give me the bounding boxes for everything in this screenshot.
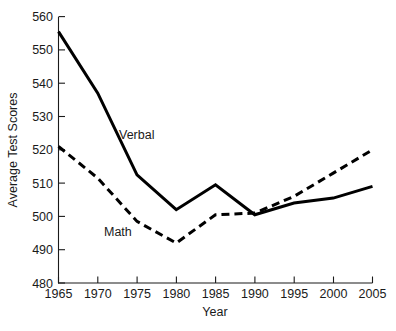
y-tick-label: 560: [32, 10, 53, 24]
x-tick-label: 1995: [280, 287, 308, 301]
series-label-verbal: Verbal: [119, 128, 154, 142]
x-tick-label: 1980: [162, 287, 190, 301]
chart-canvas: 480 490 500 510 520 530 540 550 560 1965…: [0, 0, 396, 331]
y-tick-label: 540: [32, 77, 53, 91]
y-tick-label: 490: [32, 243, 53, 257]
x-tick-label: 1970: [84, 287, 112, 301]
y-tick-label: 520: [32, 143, 53, 157]
x-tick-labels: 1965 1970 1975 1980 1985 1990 1995 2000 …: [45, 287, 387, 301]
y-tick-label: 510: [32, 177, 53, 191]
series-label-math: Math: [104, 225, 132, 239]
x-tick-label: 1990: [241, 287, 269, 301]
x-tick-marks: [59, 277, 373, 284]
y-axis-title: Average Test Scores: [6, 93, 20, 208]
y-tick-labels: 480 490 500 510 520 530 540 550 560: [32, 10, 53, 290]
y-tick-label: 530: [32, 110, 53, 124]
x-tick-label: 2000: [320, 287, 348, 301]
x-tick-label: 1965: [45, 287, 73, 301]
series-line-verbal: [59, 32, 373, 215]
x-axis-title: Year: [202, 305, 227, 319]
x-tick-label: 2005: [359, 287, 387, 301]
y-tick-label: 500: [32, 210, 53, 224]
line-chart: 480 490 500 510 520 530 540 550 560 1965…: [0, 0, 396, 331]
x-tick-label: 1975: [123, 287, 151, 301]
y-tick-label: 550: [32, 43, 53, 57]
x-tick-label: 1985: [202, 287, 230, 301]
